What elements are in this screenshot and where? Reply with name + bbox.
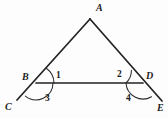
angle-arc-2	[126, 70, 131, 83]
vertex-label-b: B	[21, 71, 29, 82]
vertex-label-a: A	[95, 2, 103, 13]
vertex-label-c: C	[5, 101, 12, 112]
geometry-diagram: A B C D E 1 2 3 4	[0, 0, 168, 118]
angle-label-3: 3	[45, 93, 50, 103]
angle-label-1: 1	[56, 70, 61, 80]
angle-arc-1	[47, 69, 54, 84]
geometry-canvas: A B C D E 1 2 3 4	[0, 0, 168, 118]
vertex-label-e: E	[156, 102, 164, 113]
angle-label-4: 4	[126, 93, 131, 103]
line-segment-ca	[17, 19, 90, 100]
line-segment-ae	[90, 19, 162, 101]
angle-label-2: 2	[117, 69, 122, 79]
vertex-label-d: D	[145, 70, 153, 81]
